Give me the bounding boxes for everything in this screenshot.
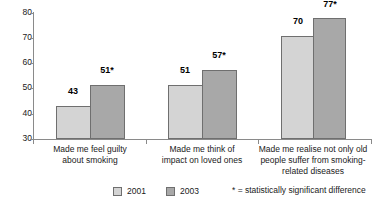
category-label-line: Made me feel guilty bbox=[30, 144, 150, 155]
bar-group2-2001[interactable] bbox=[281, 36, 314, 139]
y-tick-mark bbox=[30, 13, 34, 14]
bar-group2-2003[interactable] bbox=[313, 18, 346, 139]
legend-significance-note: * = statistically significant difference bbox=[232, 185, 366, 195]
chart-legend: 2001 2003 * = statistically significant … bbox=[0, 184, 376, 198]
y-axis-line bbox=[33, 12, 34, 140]
category-label-line: Made me realise not only old bbox=[252, 144, 374, 155]
category-label-line: about smoking bbox=[30, 155, 150, 166]
y-tick-mark bbox=[30, 88, 34, 89]
legend-swatch-icon-2001 bbox=[113, 187, 122, 196]
legend-item-2001[interactable]: 2001 bbox=[113, 185, 146, 197]
bar-group1-2001[interactable] bbox=[168, 85, 203, 139]
y-tick-label: 80 bbox=[23, 7, 32, 17]
category-label-line: related diseases bbox=[252, 166, 374, 177]
legend-swatch-icon-2003 bbox=[166, 187, 175, 196]
y-tick-70: 70 bbox=[0, 38, 40, 39]
bar-chart: 80 70 60 50 40 30 43 51* 51 57* 70 77* M… bbox=[0, 0, 376, 203]
y-tick-50: 50 bbox=[0, 88, 40, 89]
y-tick-label: 70 bbox=[23, 32, 32, 42]
y-tick-mark bbox=[30, 63, 34, 64]
category-label-0: Made me feel guilty about smoking bbox=[30, 144, 150, 166]
bar-group1-2003[interactable] bbox=[202, 70, 237, 139]
y-tick-mark bbox=[30, 114, 34, 115]
y-tick-label: 30 bbox=[23, 133, 32, 143]
y-tick-label: 50 bbox=[23, 82, 32, 92]
bar-group0-2001[interactable] bbox=[56, 106, 91, 139]
y-tick-80: 80 bbox=[0, 13, 40, 14]
category-label-line: Made me think of bbox=[147, 144, 257, 155]
category-label-1: Made me think of impact on loved ones bbox=[147, 144, 257, 166]
y-tick-label: 60 bbox=[23, 57, 32, 67]
y-tick-label: 40 bbox=[23, 108, 32, 118]
bar-value-group2-2003: 77* bbox=[305, 0, 355, 9]
x-axis-line bbox=[33, 139, 372, 140]
category-label-2: Made me realise not only old people suff… bbox=[252, 144, 374, 177]
bar-value-group1-2003: 57* bbox=[194, 50, 244, 60]
y-tick-mark bbox=[30, 38, 34, 39]
bar-value-group0-2003: 51* bbox=[82, 65, 132, 75]
legend-label-2001: 2001 bbox=[127, 186, 146, 196]
bar-group0-2003[interactable] bbox=[90, 85, 125, 139]
y-tick-30: 30 bbox=[0, 139, 40, 140]
y-tick-60: 60 bbox=[0, 63, 40, 64]
category-label-line: impact on loved ones bbox=[147, 155, 257, 166]
y-tick-40: 40 bbox=[0, 114, 40, 115]
legend-item-2003[interactable]: 2003 bbox=[166, 185, 199, 197]
category-label-line: people suffer from smoking- bbox=[252, 155, 374, 166]
legend-label-2003: 2003 bbox=[180, 186, 199, 196]
